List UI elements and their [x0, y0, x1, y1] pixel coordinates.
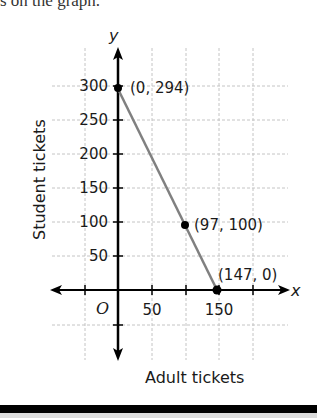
x-tick-labels: 50 150 — [142, 301, 233, 319]
point-label: (97, 100) — [194, 216, 263, 234]
x-axis-title: Adult tickets — [145, 368, 244, 387]
y-tick-label: 150 — [79, 179, 108, 197]
origin-label: O — [96, 299, 109, 318]
data-point — [114, 84, 122, 92]
y-tick-labels: 300 250 200 150 100 50 — [79, 77, 108, 265]
data-point — [181, 221, 189, 229]
y-tick-label: 50 — [89, 247, 108, 265]
x-axis-letter: x — [290, 281, 301, 300]
y-axis-letter: y — [108, 26, 119, 45]
point-label: (0, 294) — [130, 79, 189, 97]
point-label: (147, 0) — [218, 266, 277, 284]
y-tick-label: 250 — [79, 111, 108, 129]
data-point — [213, 286, 222, 295]
x-tick-label: 50 — [142, 301, 161, 319]
y-axis-title: Student tickets — [30, 119, 49, 240]
y-tick-label: 300 — [79, 77, 108, 95]
y-tick-label: 100 — [79, 213, 108, 231]
data-line — [118, 89, 217, 290]
line-chart: 300 250 200 150 100 50 50 150 O y x (0, … — [0, 0, 317, 418]
x-tick-label: 150 — [205, 301, 234, 319]
x-axis — [50, 285, 290, 295]
y-tick-label: 200 — [79, 145, 108, 163]
page-divider-bar — [0, 405, 317, 413]
page-bottom-strip — [0, 413, 317, 418]
